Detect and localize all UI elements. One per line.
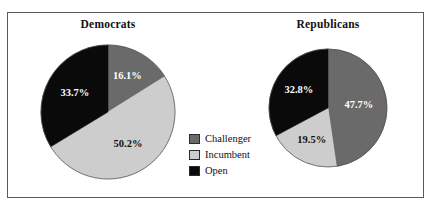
chart-legend: Challenger Incumbent Open xyxy=(189,131,261,179)
legend-item-challenger: Challenger xyxy=(189,131,261,147)
pie-democrats-svg: 16.1%50.2%33.7% xyxy=(40,44,176,184)
chart-panel-republicans: Republicans 47.7%19.5%32.8% xyxy=(258,18,398,188)
pie-value-label-challenger: 47.7% xyxy=(344,99,373,110)
chart-panel-democrats: Democrats 16.1%50.2%33.7% xyxy=(38,18,178,188)
pie-value-label-challenger: 16.1% xyxy=(113,70,142,81)
legend-swatch-incumbent-icon xyxy=(189,150,200,160)
legend-item-incumbent: Incumbent xyxy=(189,147,261,163)
pie-value-label-incumbent: 19.5% xyxy=(297,134,326,145)
legend-label-incumbent: Incumbent xyxy=(205,150,250,161)
legend-label-challenger: Challenger xyxy=(205,134,251,145)
pie-value-label-open: 33.7% xyxy=(60,87,89,98)
legend-swatch-open-icon xyxy=(189,166,200,176)
panel-title-republicans: Republicans xyxy=(258,18,398,30)
pie-democrats-slices xyxy=(41,45,175,179)
figure-canvas: Democrats 16.1%50.2%33.7% Republicans 47… xyxy=(0,0,432,206)
legend-label-open: Open xyxy=(205,166,228,177)
clipped-text-remnant xyxy=(0,0,432,7)
pie-chart-republicans: 47.7%19.5%32.8% xyxy=(268,48,390,172)
panel-title-democrats: Democrats xyxy=(38,18,178,30)
pie-chart-democrats: 16.1%50.2%33.7% xyxy=(40,44,176,184)
legend-item-open: Open xyxy=(189,163,261,179)
pie-republicans-svg: 47.7%19.5%32.8% xyxy=(268,48,390,172)
pie-value-label-incumbent: 50.2% xyxy=(114,138,143,149)
legend-swatch-challenger-icon xyxy=(189,134,200,144)
pie-value-label-open: 32.8% xyxy=(284,84,313,95)
